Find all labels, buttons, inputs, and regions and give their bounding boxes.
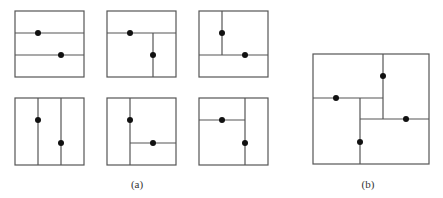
panel-b	[313, 54, 429, 164]
panel-border	[199, 11, 268, 77]
panel-border	[107, 11, 176, 77]
label-b: (b)	[362, 178, 375, 190]
panel-border	[15, 98, 84, 165]
panel-border	[107, 98, 176, 165]
panel-border	[199, 98, 268, 165]
figure: (a) (b)	[0, 0, 443, 198]
point-dot	[58, 140, 64, 146]
panel-a5	[107, 98, 176, 165]
point-dot	[127, 117, 133, 123]
panel-border	[313, 54, 429, 164]
point-dot	[333, 95, 339, 101]
point-dot	[219, 30, 225, 36]
point-dot	[380, 73, 386, 79]
panel-a6	[199, 98, 268, 165]
point-dot	[357, 139, 363, 145]
point-dot	[242, 140, 248, 146]
point-dot	[242, 52, 248, 58]
point-dot	[35, 117, 41, 123]
point-dot	[150, 140, 156, 146]
point-dot	[150, 52, 156, 58]
point-dot	[403, 116, 409, 122]
point-dot	[35, 30, 41, 36]
panel-a1	[15, 11, 84, 77]
point-dot	[58, 52, 64, 58]
diagram-canvas	[0, 0, 443, 198]
point-dot	[219, 117, 225, 123]
panel-a3	[199, 11, 268, 77]
point-dot	[127, 30, 133, 36]
panel-a2	[107, 11, 176, 77]
label-a: (a)	[131, 178, 143, 190]
panel-a4	[15, 98, 84, 165]
panel-border	[15, 11, 84, 77]
